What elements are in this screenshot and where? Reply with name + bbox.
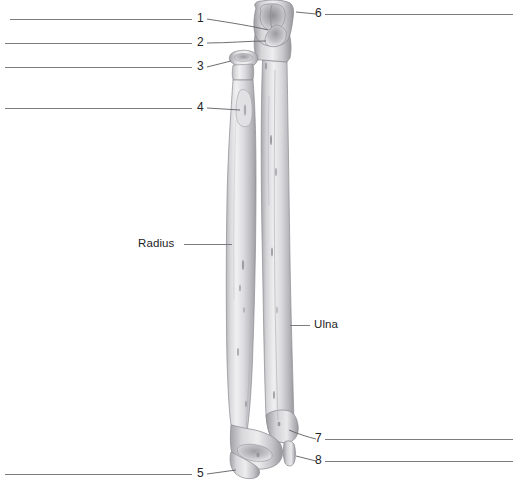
leader-line-6	[325, 14, 513, 15]
label-number-2: 2	[197, 37, 204, 48]
label-number-6: 6	[315, 8, 322, 19]
anatomy-figure: 1 2 3 4 5 6 7 8 Radius Ulna	[0, 0, 521, 485]
pointer-5	[207, 470, 236, 474]
label-number-7: 7	[315, 433, 322, 444]
pointer-strokes	[207, 12, 316, 474]
leader-line-radius	[184, 244, 232, 245]
leader-line-7	[325, 439, 513, 440]
ulna-bone	[254, 0, 298, 466]
leader-line-1	[10, 19, 192, 20]
leader-line-5	[5, 474, 192, 475]
leader-line-4	[5, 108, 192, 109]
label-ulna: Ulna	[314, 319, 338, 330]
label-number-8: 8	[315, 455, 322, 466]
leader-line-3	[5, 67, 192, 68]
label-number-3: 3	[197, 61, 204, 72]
leader-line-8	[325, 461, 513, 462]
label-number-1: 1	[197, 13, 204, 24]
pointer-8	[296, 456, 316, 461]
label-number-5: 5	[197, 468, 204, 479]
pointer-3	[207, 61, 231, 67]
label-radius: Radius	[138, 238, 174, 249]
leader-line-2	[5, 43, 192, 44]
leader-line-ulna	[290, 325, 310, 326]
bones-illustration	[0, 0, 521, 485]
label-number-4: 4	[197, 102, 204, 113]
pointer-6	[296, 12, 316, 14]
